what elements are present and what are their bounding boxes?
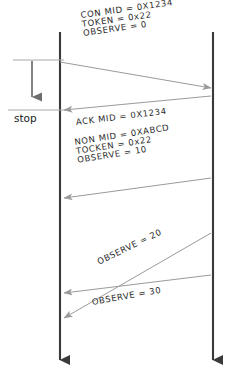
stop-label: stop <box>14 112 37 124</box>
stop-marker <box>8 60 66 110</box>
sequence-diagram: CON MID = 0X1234 TOKEN = 0x22 OBSERVE = … <box>0 0 232 385</box>
message-arrow-ack <box>64 96 211 110</box>
sequence-diagram-canvas <box>0 0 232 385</box>
message-arrow-non <box>64 178 211 198</box>
message-arrow-con <box>60 62 211 88</box>
